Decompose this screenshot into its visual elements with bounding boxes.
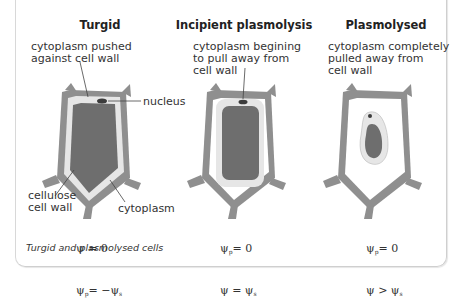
panel-title-incipient: Incipient plasmolysis bbox=[176, 18, 313, 32]
equation-incipient: ψp= 0 ψ = ψs bbox=[220, 216, 257, 302]
panel-title-turgid: Turgid bbox=[80, 18, 121, 32]
annotation-turgid: cytoplasm pushed against cell wall bbox=[31, 41, 132, 65]
annotation-incipient: cytoplasm begining to pull away from cel… bbox=[193, 41, 301, 77]
label-nucleus: nucleus bbox=[143, 96, 186, 108]
nucleus-icon bbox=[239, 100, 248, 105]
equation-plasmolysed: ψp= 0 ψ > ψs bbox=[366, 216, 403, 302]
nucleus-icon bbox=[97, 99, 107, 104]
figure-caption: Turgid and plasmolysed cells bbox=[26, 242, 163, 253]
nucleus-icon bbox=[368, 114, 372, 118]
panel-title-plasmolysed: Plasmolysed bbox=[345, 18, 426, 32]
equation-turgid: ψ = 0 ψp= −ψs bbox=[76, 216, 122, 302]
label-cytoplasm: cytoplasm bbox=[118, 203, 175, 215]
label-cell-wall: cellulose cell wall bbox=[28, 190, 76, 214]
incipient-cell bbox=[187, 68, 286, 219]
plasmolysed-cell bbox=[323, 83, 422, 219]
annotation-plasmolysed: cytoplasm completely pulled away from ce… bbox=[328, 41, 449, 77]
